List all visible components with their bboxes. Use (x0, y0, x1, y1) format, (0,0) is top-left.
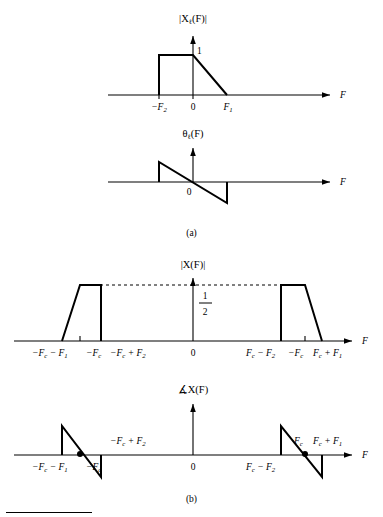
x-axis-arrowhead (322, 179, 330, 185)
plot-b-magnitude: |X(F)| 1 2 −Fc − F1 −Fc −Fc + F2 0 (0, 252, 383, 374)
xtick-label-neg-Fc-minus-F1: −Fc − F1 (32, 348, 68, 359)
x-axis-label: F (361, 336, 368, 346)
plot-b-magnitude-title: |X(F)| (181, 259, 206, 271)
label-neg-Fc: −Fc (86, 462, 101, 473)
xtick-label-neg-Fc: −Fc (86, 348, 101, 359)
x-axis-label: F (339, 177, 346, 187)
y-axis-arrowhead (190, 148, 196, 156)
xtick-label-Fc-plus-F1: Fc + F1 (312, 348, 342, 359)
label-neg-Fc-minus-F1: −Fc − F1 (32, 462, 68, 473)
level-label-numerator: 1 (203, 291, 208, 301)
level-label-half: 1 2 (199, 291, 212, 317)
xtick-label-right-Fc: −Fc (288, 348, 303, 359)
x-axis-arrowhead (344, 452, 352, 458)
figure-container: |Xℓ(F)| 1 −F2 0 F1 F θℓ(F) (0, 0, 383, 517)
xtick-label-F1: F1 (222, 102, 232, 113)
x-axis-arrowhead (322, 92, 330, 98)
xtick-label-neg-F2: −F2 (151, 102, 167, 113)
x-axis-arrowhead (344, 338, 352, 344)
panel-b-label: (b) (0, 488, 383, 506)
plot-a-phase-title: θℓ(F) (182, 128, 204, 140)
x-axis-label: F (339, 90, 346, 100)
plot-a-magnitude: |Xℓ(F)| 1 −F2 0 F1 F (0, 4, 383, 116)
label-Fc-plus-F1: Fc + F1 (312, 436, 342, 447)
label-neg-Fc-plus-F2: −Fc + F2 (110, 436, 146, 447)
origin-label: 0 (191, 462, 196, 472)
phase-curve-right (281, 426, 322, 477)
panel-a-label: (a) (0, 222, 383, 240)
peak-value-label: 1 (197, 46, 202, 56)
xtick-label-Fc-minus-F2: Fc − F2 (245, 348, 276, 359)
plot-a-magnitude-title: |Xℓ(F)| (179, 13, 207, 25)
page-bottom-rule (6, 512, 92, 513)
label-right-Fc: Fc (293, 436, 303, 447)
magnitude-curve-right (281, 285, 322, 341)
xtick-label-zero: 0 (191, 348, 196, 358)
marked-point-neg-Fc (77, 451, 83, 457)
level-label-denominator: 2 (203, 307, 208, 317)
y-axis-arrowhead (190, 36, 196, 44)
xtick-label-neg-Fc-plus-F2: −Fc + F2 (110, 348, 146, 359)
xtick-label-zero: 0 (191, 102, 196, 112)
magnitude-curve-left (62, 285, 101, 341)
y-axis-arrowhead (190, 404, 196, 412)
origin-label: 0 (187, 187, 192, 197)
x-axis-label: F (361, 450, 368, 460)
plot-b-phase-title: ∡X(F) (178, 384, 209, 396)
plot-b-phase: ∡X(F) −Fc + F2 −Fc − F1 −Fc 0 Fc Fc + F1 (0, 378, 383, 490)
marked-point-Fc (302, 451, 308, 457)
label-Fc-minus-F2: Fc − F2 (245, 462, 276, 473)
plot-a-phase: θℓ(F) 0 F (0, 122, 383, 222)
